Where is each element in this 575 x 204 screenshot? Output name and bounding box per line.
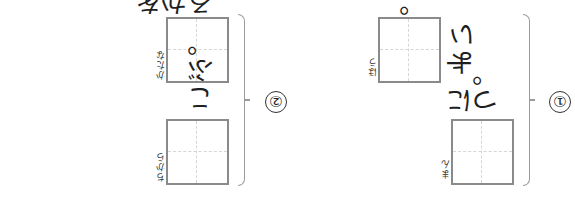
item-2-1-suffix: を かざる。 <box>137 0 215 16</box>
question-number-2: ② <box>265 91 287 113</box>
question-1-brace-tip <box>529 100 535 102</box>
question-2-brace-tip <box>244 100 250 102</box>
question-number-1: ① <box>549 91 571 113</box>
item-2-2-reading: ちから <box>156 152 165 182</box>
item-2-1-reading: かたな <box>156 50 165 80</box>
item-1-1-answer-box[interactable] <box>378 17 441 83</box>
item-1-2-answer-box[interactable] <box>451 119 514 185</box>
item-2-2-suffix: こぶ。 <box>189 28 215 112</box>
item-1-1-suffix: 。 <box>401 0 427 16</box>
kanji-worksheet: ① よい ほう 。 まん に 一つ。 ② かたな を かざる。 ちから こぶ。 <box>0 0 575 204</box>
item-1-2-reading: まん <box>441 159 450 179</box>
item-2-2-answer-box[interactable] <box>166 119 229 185</box>
item-1-2-suffix: に 一つ。 <box>448 0 500 114</box>
item-1-1-reading: ほう <box>368 57 377 77</box>
